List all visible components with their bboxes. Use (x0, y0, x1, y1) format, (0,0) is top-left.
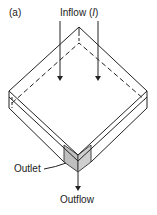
hidden-edge (12, 43, 145, 103)
outflow-label: Outflow (60, 195, 94, 205)
outlet-leader (44, 163, 66, 169)
top-outer-edge (9, 27, 147, 155)
catchment-diagram (0, 0, 157, 215)
outlet-label: Outlet (14, 164, 41, 174)
